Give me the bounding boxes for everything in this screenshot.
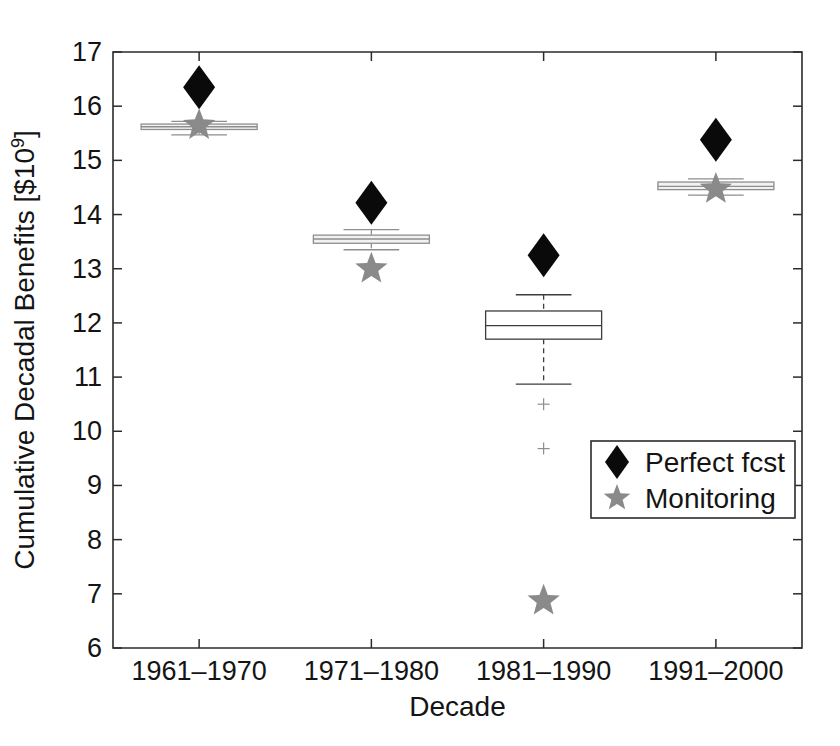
x-tick-label: 1991–2000 bbox=[648, 656, 783, 686]
legend-item-label: Monitoring bbox=[645, 483, 776, 514]
y-tick-label: 12 bbox=[72, 308, 102, 338]
figure-container: 678910111213141516171961–19701971–198019… bbox=[0, 0, 840, 746]
y-tick-label: 10 bbox=[72, 416, 102, 446]
y-tick-label: 6 bbox=[87, 633, 102, 663]
y-tick-label: 15 bbox=[72, 145, 102, 175]
y-tick-label: 13 bbox=[72, 254, 102, 284]
y-tick-label: 17 bbox=[72, 37, 102, 67]
y-axis-title: Cumulative Decadal Benefits [$109] bbox=[8, 130, 40, 570]
y-tick-label: 11 bbox=[74, 362, 102, 392]
x-tick-label: 1981–1990 bbox=[476, 656, 611, 686]
y-tick-label: 14 bbox=[72, 200, 102, 230]
box-plot-chart: 678910111213141516171961–19701971–198019… bbox=[0, 0, 840, 746]
legend-item-label: Perfect fcst bbox=[645, 447, 785, 478]
y-tick-label: 7 bbox=[87, 579, 102, 609]
x-tick-label: 1971–1980 bbox=[304, 656, 439, 686]
svg-text:Cumulative Decadal Benefits [$: Cumulative Decadal Benefits [$109] bbox=[8, 130, 40, 570]
y-tick-label: 16 bbox=[72, 91, 102, 121]
plot-background bbox=[113, 52, 802, 648]
y-tick-label: 8 bbox=[87, 525, 102, 555]
x-tick-label: 1961–1970 bbox=[132, 656, 267, 686]
y-tick-label: 9 bbox=[87, 470, 102, 500]
legend[interactable]: Perfect fcstMonitoring bbox=[591, 441, 795, 518]
x-axis-title: Decade bbox=[409, 691, 506, 722]
